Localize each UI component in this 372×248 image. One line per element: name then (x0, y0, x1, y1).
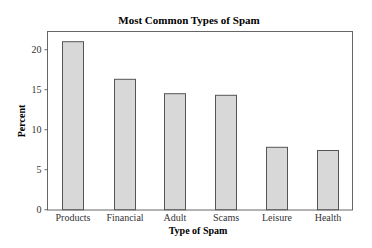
bar-chart: Most Common Types of Spam 05101520 Produ… (0, 0, 372, 248)
bar-products (63, 42, 84, 210)
bar-adult (165, 94, 186, 210)
x-axis-labels: ProductsFinancialAdultScamsLeisureHealth (56, 212, 342, 223)
bar-financial (115, 79, 136, 209)
plot-frame (48, 32, 353, 211)
bar-health (318, 151, 339, 210)
chart-title: Most Common Types of Spam (118, 14, 259, 26)
bar-scams (216, 95, 237, 209)
x-tick-label: Products (56, 212, 91, 223)
y-tick-label: 20 (32, 44, 42, 55)
x-tick-label: Leisure (262, 212, 293, 223)
bar-leisure (267, 147, 288, 209)
y-tick-label: 0 (37, 204, 42, 215)
y-axis-title: Percent (16, 104, 27, 137)
x-tick-label: Scams (213, 212, 239, 223)
y-axis: 05101520 (32, 44, 48, 215)
y-tick-label: 10 (32, 124, 42, 135)
x-tick-label: Adult (164, 212, 187, 223)
y-tick-label: 15 (32, 84, 42, 95)
y-tick-label: 5 (37, 164, 42, 175)
x-tick-label: Financial (106, 212, 143, 223)
x-axis-title: Type of Spam (169, 225, 228, 236)
x-tick-label: Health (315, 212, 342, 223)
bars (63, 42, 339, 210)
